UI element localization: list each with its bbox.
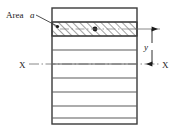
diagram-canvas: Area a X X y — [0, 0, 177, 132]
distance-label-y: y — [143, 42, 148, 52]
area-label: Area — [6, 10, 24, 20]
axis-label-right: X — [162, 60, 169, 70]
cross-section-diagram: Area a X X y — [0, 0, 177, 132]
axis-label-left: X — [19, 60, 26, 70]
area-symbol-label: a — [30, 10, 35, 20]
area-leader-anchor-dot — [56, 25, 59, 28]
